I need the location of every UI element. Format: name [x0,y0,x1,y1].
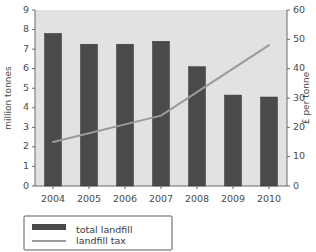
left-tick-label: 6 [23,62,29,73]
y-axis-title: million tonnes [3,66,13,130]
chart-container: 0123456789 0102030405060 200420052006200… [0,0,316,252]
bar-2010 [261,97,278,186]
left-tick-label: 2 [23,140,29,151]
right-tick-label: 0 [293,180,299,191]
x-tick-label-2007: 2007 [149,193,173,204]
x-tick-label-2004: 2004 [41,193,65,204]
bar-2009 [225,95,242,186]
right-tick-label: 40 [293,62,305,73]
left-tick-label: 8 [23,23,29,34]
legend-label-landfill-tax: landfill tax [76,235,126,246]
legend-label-total-landfill: total landfill [76,224,133,235]
bar-2006 [117,44,134,186]
bar-2007 [153,41,170,186]
legend-swatch-total-landfill [32,224,66,230]
bar-2004 [45,33,62,186]
landfill-chart: 0123456789 0102030405060 200420052006200… [0,0,316,252]
bar-2005 [81,44,98,186]
y2-axis-title: £ per tonne [301,71,311,124]
left-tick-label: 9 [23,4,29,15]
x-tick-label-2005: 2005 [77,193,101,204]
right-tick-label: 10 [293,150,305,161]
right-tick-label: 60 [293,4,305,15]
chart-legend: total landfill landfill tax [24,216,172,250]
left-tick-label: 1 [23,160,29,171]
left-tick-label: 5 [23,82,29,93]
x-tick-label-2008: 2008 [185,193,209,204]
left-tick-label: 4 [23,101,29,112]
x-tick-label-2009: 2009 [221,193,245,204]
bar-2008 [189,67,206,186]
left-tick-label: 7 [23,43,29,54]
left-tick-label: 0 [23,180,29,191]
x-tick-label-2006: 2006 [113,193,137,204]
x-tick-label-2010: 2010 [257,193,281,204]
right-tick-label: 50 [293,33,305,44]
left-tick-label: 3 [23,121,29,132]
